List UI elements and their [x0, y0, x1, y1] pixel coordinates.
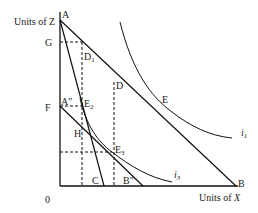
point-g-label: G — [45, 38, 52, 48]
point-e-label: E — [162, 95, 168, 105]
x-axis-label-prefix: Units of — [199, 192, 234, 203]
y-axis-label: Units of Z — [14, 17, 55, 27]
point-d-label: D — [116, 81, 123, 91]
curve-i3-label: i3 — [174, 170, 180, 183]
indifference-curve-diagram: Units of Z Units of X 0 A B G F A" D1 D … — [0, 0, 258, 213]
budget-line-fb2 — [60, 106, 143, 186]
point-e3-sub: 3 — [121, 149, 125, 157]
point-c-label: C — [92, 176, 99, 186]
point-d1-label: D1 — [84, 52, 95, 65]
point-b2-label: B" — [123, 176, 134, 186]
point-e2-sub: 2 — [90, 103, 94, 111]
curve-i1-label: i1 — [241, 128, 247, 141]
point-e2-label: E2 — [84, 99, 94, 112]
point-d1-sub: 1 — [91, 56, 95, 64]
curve-i3-sub: 3 — [177, 174, 181, 182]
indifference-curve-i1 — [120, 22, 232, 138]
point-h-label: H — [74, 129, 81, 139]
point-a-label: A — [62, 10, 69, 20]
curve-i1-sub: 1 — [244, 132, 248, 140]
point-b-label: B — [238, 179, 245, 189]
x-axis-label: Units of X — [199, 193, 240, 203]
point-e3-label: E3 — [115, 145, 125, 158]
point-a2-label: A" — [61, 97, 72, 107]
point-f-label: F — [45, 103, 51, 113]
x-axis-label-var: X — [234, 192, 240, 203]
origin-label: 0 — [45, 195, 50, 205]
